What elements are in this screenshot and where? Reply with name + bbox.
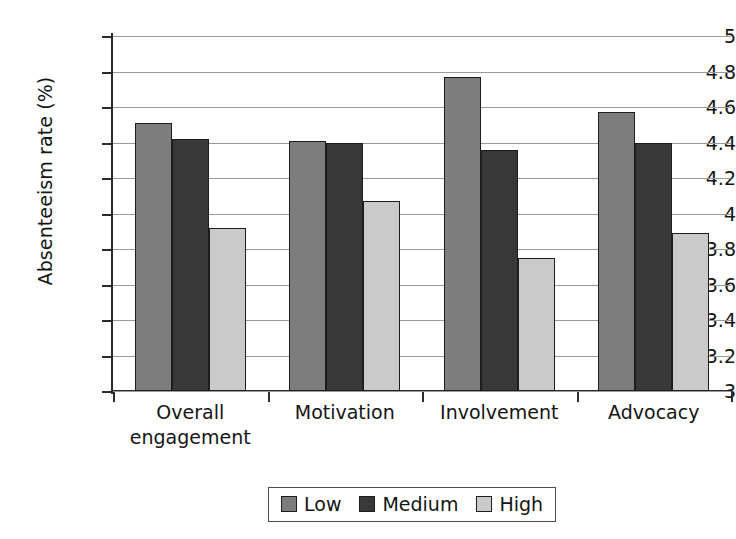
x-tick-mark [731, 391, 733, 402]
y-tick-mark [102, 249, 113, 251]
bar-motivation-high [363, 201, 400, 391]
y-tick-mark [102, 356, 113, 358]
gridline [113, 36, 731, 37]
bar-chart: Absenteeism rate (%) 54.84.64.44.243.83.… [0, 0, 736, 539]
bar-overall-engagement-low [135, 123, 172, 391]
legend-swatch-medium-icon [359, 496, 375, 512]
x-category-label-involvement: Involvement [422, 400, 577, 425]
y-tick-mark [102, 143, 113, 145]
legend-item-medium: Medium [359, 493, 458, 515]
bar-overall-engagement-medium [172, 139, 209, 391]
y-tick-mark [102, 214, 113, 216]
x-category-label-motivation: Motivation [268, 400, 423, 425]
legend-label-medium: Medium [382, 493, 458, 515]
bar-motivation-low [289, 141, 326, 391]
legend-label-low: Low [304, 493, 341, 515]
y-tick-mark [102, 36, 113, 38]
legend-swatch-low-icon [281, 496, 297, 512]
bar-advocacy-low [598, 112, 635, 391]
bar-motivation-medium [326, 143, 363, 392]
chart-legend: Low Medium High [268, 487, 556, 522]
legend-item-low: Low [281, 493, 341, 515]
y-tick-mark [102, 72, 113, 74]
bar-overall-engagement-high [209, 228, 246, 391]
plot-area [113, 36, 731, 391]
bar-involvement-low [444, 77, 481, 391]
bar-advocacy-high [672, 233, 709, 391]
y-tick-mark [102, 391, 113, 393]
y-axis-title: Absenteeism rate (%) [34, 31, 56, 331]
legend-swatch-high-icon [476, 496, 492, 512]
y-tick-mark [102, 178, 113, 180]
bar-involvement-medium [481, 150, 518, 391]
x-category-label-overall-engagement: Overallengagement [113, 400, 268, 450]
gridline [113, 72, 731, 73]
y-tick-mark [102, 320, 113, 322]
bar-involvement-high [518, 258, 555, 391]
legend-label-high: High [499, 493, 543, 515]
bar-advocacy-medium [635, 143, 672, 392]
x-category-label-advocacy: Advocacy [577, 400, 732, 425]
legend-item-high: High [476, 493, 543, 515]
gridline [113, 391, 731, 392]
y-tick-mark [102, 285, 113, 287]
gridline [113, 107, 731, 108]
y-tick-mark [102, 107, 113, 109]
